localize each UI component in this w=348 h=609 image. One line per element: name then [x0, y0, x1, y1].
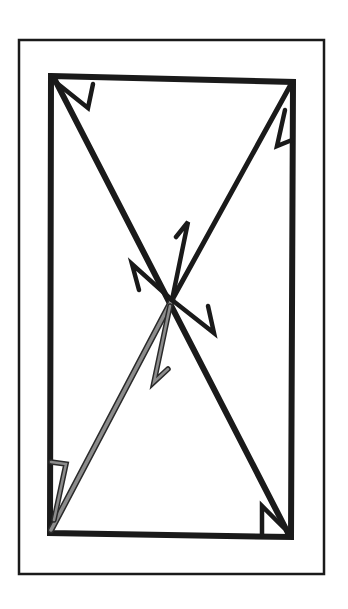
geometry-diagram	[0, 0, 348, 609]
